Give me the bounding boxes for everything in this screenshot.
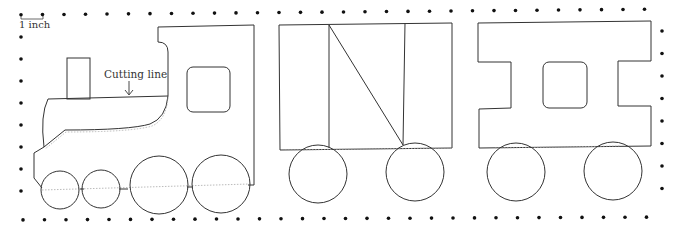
arrow-down-icon [0, 0, 677, 227]
